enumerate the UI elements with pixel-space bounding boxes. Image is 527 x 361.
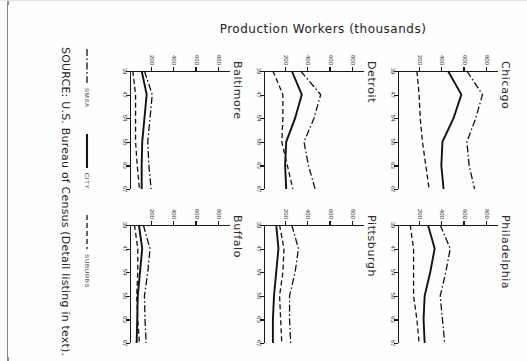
y-tick-label: 800 <box>349 54 355 64</box>
plot-area: 800600400200394754586367 <box>264 225 364 343</box>
panel-chicago: Chicago800600400200394754586367 <box>382 45 514 191</box>
y-tick <box>485 221 486 225</box>
series-line-smsa <box>143 225 150 343</box>
panel-title: Detroit <box>365 61 378 103</box>
series-line-city <box>141 71 146 189</box>
y-tick-label: 800 <box>483 208 489 218</box>
panel-title: Chicago <box>499 61 512 109</box>
x-tick-label: 63 <box>390 162 396 169</box>
panel-title: Pittsburgh <box>365 215 378 277</box>
y-tick <box>285 221 286 225</box>
y-tick-label: 800 <box>215 54 221 64</box>
y-tick <box>195 67 196 71</box>
y-tick-label: 600 <box>193 54 199 64</box>
dashed-line-icon <box>83 215 91 249</box>
series-line-suburbs <box>279 225 283 343</box>
series-line-city <box>272 225 278 343</box>
y-tick <box>419 67 420 71</box>
y-tick-label: 200 <box>149 54 155 64</box>
small-multiples-grid: Chicago800600400200394754586367Philadelp… <box>114 45 514 345</box>
y-tick <box>151 67 152 71</box>
x-tick-label: 47 <box>390 245 396 252</box>
x-tick-label: 47 <box>122 245 128 252</box>
x-tick-label: 54 <box>122 114 128 121</box>
y-tick-label: 600 <box>461 208 467 218</box>
y-tick <box>285 67 286 71</box>
scan-border-top <box>0 0 527 1</box>
x-tick-label: 63 <box>256 316 262 323</box>
legend-item-smsa: SMSA <box>83 49 91 108</box>
legend-label: SMSA <box>84 88 90 108</box>
figure-page: Production Workers (thousands) Chicago80… <box>0 0 527 361</box>
y-tick-label: 800 <box>349 208 355 218</box>
series-line-smsa <box>440 225 450 343</box>
x-tick-label: 47 <box>256 245 262 252</box>
plot-area: 800600400200394754586367 <box>398 71 498 189</box>
series-line-smsa <box>289 225 298 343</box>
plot-area: 800600400200394754586367 <box>264 71 364 189</box>
y-tick-label: 600 <box>327 54 333 64</box>
x-tick-label: 39 <box>122 221 128 228</box>
y-tick <box>329 221 330 225</box>
x-tick-label: 54 <box>122 268 128 275</box>
dash-dot-line-icon <box>83 49 91 83</box>
panel-pittsburgh: Pittsburgh800600400200394754586367 <box>248 199 380 345</box>
x-tick-label: 47 <box>390 91 396 98</box>
x-tick-label: 67 <box>122 185 128 192</box>
legend-item-city: CITY <box>83 133 91 188</box>
x-tick-label: 63 <box>122 316 128 323</box>
x-tick-label: 58 <box>256 138 262 145</box>
x-tick-label: 63 <box>122 162 128 169</box>
y-tick-label: 200 <box>417 54 423 64</box>
y-tick <box>151 221 152 225</box>
y-tick <box>441 221 442 225</box>
y-tick-label: 200 <box>149 208 155 218</box>
panel-detroit: Detroit800600400200394754586367 <box>248 45 380 191</box>
x-tick-label: 67 <box>390 185 396 192</box>
x-tick-label: 58 <box>122 292 128 299</box>
source-note: SOURCE: U.S. Bureau of Census (Detail li… <box>59 47 72 353</box>
legend-item-suburbs: SUBURBS <box>83 215 91 288</box>
y-axis-title: Production Workers (thousands) <box>203 22 443 36</box>
x-tick-label: 58 <box>256 292 262 299</box>
x-tick-label: 47 <box>122 91 128 98</box>
panel-buffalo: Buffalo800600400200394754586367 <box>114 199 246 345</box>
legend-label: CITY <box>84 172 90 188</box>
legend-label: SUBURBS <box>84 254 90 288</box>
x-tick-label: 39 <box>390 67 396 74</box>
rotated-figure-wrapper: Production Workers (thousands) Chicago80… <box>8 5 520 357</box>
y-tick <box>463 67 464 71</box>
series-line-city <box>423 225 434 343</box>
y-tick-label: 200 <box>417 208 423 218</box>
y-tick-label: 200 <box>283 208 289 218</box>
x-tick-label: 67 <box>122 339 128 346</box>
y-tick-label: 400 <box>439 208 445 218</box>
y-tick <box>463 221 464 225</box>
x-tick-label: 39 <box>256 221 262 228</box>
y-tick <box>441 67 442 71</box>
panel-philadelphia: Philadelphia800600400200394754586367 <box>382 199 514 345</box>
x-tick-label: 67 <box>256 185 262 192</box>
panel-title: Baltimore <box>231 61 244 120</box>
x-tick-label: 54 <box>390 268 396 275</box>
chart-legend: SMSACITYSUBURBS <box>70 49 104 349</box>
solid-line-icon <box>83 133 91 167</box>
x-tick-label: 54 <box>256 114 262 121</box>
y-tick <box>195 221 196 225</box>
x-tick-label: 58 <box>390 292 396 299</box>
y-tick-label: 400 <box>171 208 177 218</box>
x-tick-label: 63 <box>390 316 396 323</box>
x-tick-label: 63 <box>256 162 262 169</box>
panel-title: Buffalo <box>231 215 244 258</box>
y-tick <box>419 221 420 225</box>
y-tick-label: 400 <box>439 54 445 64</box>
x-tick-label: 54 <box>390 114 396 121</box>
series-line-city <box>285 71 302 189</box>
y-tick-label: 800 <box>215 208 221 218</box>
x-tick-label: 39 <box>122 67 128 74</box>
y-tick <box>485 67 486 71</box>
y-tick <box>307 221 308 225</box>
series-line-suburbs <box>272 71 292 189</box>
y-tick-label: 600 <box>327 208 333 218</box>
plot-area: 800600400200394754586367 <box>130 71 230 189</box>
